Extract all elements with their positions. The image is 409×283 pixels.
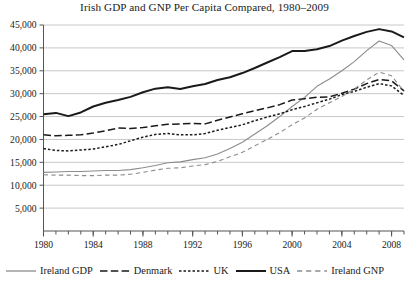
chart-title: Irish GDP and GNP Per Capita Compared, 1…	[0, 1, 409, 13]
chart-container: Irish GDP and GNP Per Capita Compared, 1…	[0, 0, 409, 283]
gridlines	[44, 25, 405, 208]
data-series-group	[44, 29, 405, 175]
series-line-ireland-gdp	[44, 41, 405, 172]
y-axis-tick-labels: 5,00010,00015,00020,00025,00030,00035,00…	[10, 19, 37, 213]
x-tick-label: 2004	[332, 239, 351, 250]
x-tick-label: 2000	[283, 239, 302, 250]
series-line-denmark	[44, 79, 405, 135]
y-tick-label: 20,000	[10, 134, 37, 145]
legend-swatch-icon	[6, 266, 36, 276]
legend-swatch-icon	[100, 266, 130, 276]
legend-swatch-icon	[297, 266, 327, 276]
y-tick-label: 25,000	[10, 111, 37, 122]
legend-item-usa[interactable]: USA	[236, 265, 291, 276]
legend-swatch-icon	[236, 266, 266, 276]
x-axis-tick-labels: 19801984198819921996200020042008	[34, 239, 401, 250]
x-tick-label: 1992	[183, 239, 202, 250]
y-tick-label: 10,000	[10, 180, 37, 191]
axis-lines	[44, 25, 405, 231]
y-tick-label: 40,000	[10, 42, 37, 53]
x-tick-label: 1984	[84, 239, 103, 250]
y-tick-label: 45,000	[10, 19, 37, 30]
x-tick-label: 1988	[133, 239, 152, 250]
x-tick-label: 1980	[34, 239, 53, 250]
chart-legend: Ireland GDPDenmarkUKUSAIreland GNP	[0, 258, 409, 283]
x-tick-label: 2008	[382, 239, 401, 250]
legend-label: Denmark	[134, 265, 173, 276]
legend-label: Ireland GNP	[331, 265, 384, 276]
x-tick-label: 1996	[233, 239, 252, 250]
y-tick-label: 35,000	[10, 65, 37, 76]
legend-item-ireland-gnp[interactable]: Ireland GNP	[297, 265, 384, 276]
legend-swatch-icon	[179, 266, 209, 276]
legend-item-denmark[interactable]: Denmark	[100, 265, 173, 276]
legend-label: USA	[270, 265, 291, 276]
y-axis-ticks	[40, 25, 44, 208]
legend-label: UK	[213, 265, 228, 276]
x-axis-minor-ticks	[44, 231, 405, 235]
y-tick-label: 30,000	[10, 88, 37, 99]
legend-label: Ireland GDP	[40, 265, 93, 276]
y-tick-label: 5,000	[15, 203, 37, 214]
chart-svg: 5,00010,00015,00020,00025,00030,00035,00…	[0, 18, 409, 256]
y-tick-label: 15,000	[10, 157, 37, 168]
plot-area: 5,00010,00015,00020,00025,00030,00035,00…	[0, 18, 409, 256]
legend-item-ireland-gdp[interactable]: Ireland GDP	[6, 265, 93, 276]
series-line-ireland-gnp	[44, 72, 405, 175]
legend-item-uk[interactable]: UK	[179, 265, 228, 276]
series-line-usa	[44, 29, 405, 116]
